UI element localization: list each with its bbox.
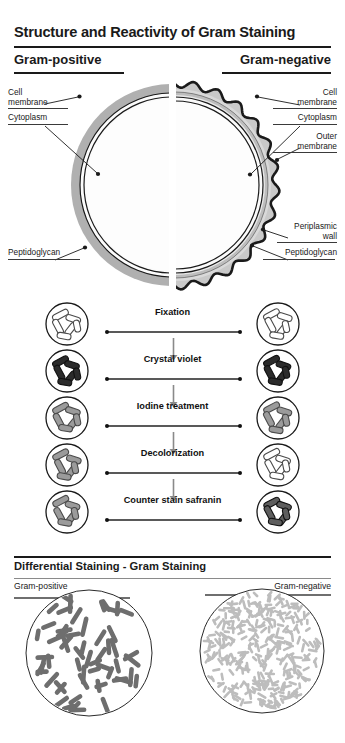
bottom-section-divider bbox=[14, 556, 331, 558]
callout-underline bbox=[8, 108, 68, 109]
callout-line-1: Cytoplasm bbox=[273, 113, 337, 123]
bacterium-rod bbox=[306, 619, 309, 625]
process-step-label: Fixation bbox=[0, 307, 345, 317]
process-step-label: Iodine treatment bbox=[0, 401, 345, 411]
gram-negative-underline bbox=[222, 72, 331, 74]
callout-underline bbox=[8, 124, 68, 125]
callout-cell-membrane-right: Cell membrane bbox=[273, 88, 337, 109]
title-divider bbox=[14, 46, 331, 48]
bacterium-rod bbox=[268, 626, 271, 634]
callout-line-1: Cytoplasm bbox=[8, 113, 72, 123]
connector-dot bbox=[105, 471, 109, 475]
bacterium-rod bbox=[242, 620, 249, 623]
bacterium-rod bbox=[223, 607, 233, 610]
connector-dot bbox=[238, 424, 242, 428]
process-step-label: Crystal violet bbox=[0, 354, 345, 364]
callout-line-2: membrane bbox=[273, 142, 337, 152]
callout-line-2: wall bbox=[277, 232, 337, 242]
diagram-page: Structure and Reactivity of Gram Stainin… bbox=[0, 0, 345, 743]
callout-periplasmic-wall-right: Periplasmic wall bbox=[277, 222, 337, 243]
callout-peptidoglycan-right: Peptidoglycan bbox=[263, 248, 337, 260]
callout-line-1: Peptidoglycan bbox=[263, 248, 337, 258]
bacterium-rod bbox=[35, 655, 54, 660]
callout-underline bbox=[273, 152, 337, 153]
connector-dot bbox=[105, 424, 109, 428]
bacterium-rod bbox=[303, 611, 306, 620]
page-title: Structure and Reactivity of Gram Stainin… bbox=[14, 24, 334, 40]
microscope-view-diagram bbox=[0, 585, 345, 730]
connector-dot bbox=[238, 471, 242, 475]
gram-negative-heading: Gram-negative bbox=[240, 52, 331, 67]
callout-underline bbox=[263, 259, 335, 260]
bottom-section-title: Differential Staining - Gram Staining bbox=[14, 560, 206, 572]
bacterium-rod bbox=[273, 620, 276, 627]
callout-cytoplasm-right: Cytoplasm bbox=[273, 113, 337, 125]
bacterium-rod bbox=[237, 607, 240, 616]
connector-dot bbox=[105, 330, 109, 334]
gram-positive-underline bbox=[14, 72, 124, 74]
callout-peptidoglycan-left: Peptidoglycan bbox=[8, 248, 82, 260]
cell-structure-diagram bbox=[0, 78, 345, 293]
callout-cell-membrane-left: Cell membrane bbox=[8, 88, 72, 109]
hemisphere-split-gap bbox=[169, 78, 176, 293]
callout-underline bbox=[273, 108, 337, 109]
callout-cytoplasm-left: Cytoplasm bbox=[8, 113, 72, 125]
bottom-title-underline bbox=[14, 578, 331, 579]
staining-process-diagram bbox=[0, 300, 345, 550]
bacterium-rod bbox=[264, 672, 275, 675]
bacterium-rod bbox=[224, 612, 227, 620]
process-step-label: Counter stain safranin bbox=[0, 495, 345, 505]
callout-line-2: membrane bbox=[273, 98, 337, 108]
connector-dot bbox=[238, 377, 242, 381]
callout-line-1: Peptidoglycan bbox=[8, 248, 82, 258]
process-step-label: Decolorization bbox=[0, 448, 345, 458]
gram-positive-heading: Gram-positive bbox=[14, 52, 101, 67]
callout-underline bbox=[273, 124, 337, 125]
bacterium-rod bbox=[35, 669, 49, 674]
callout-underline bbox=[8, 259, 80, 260]
callout-outer-membrane-right: Outer membrane bbox=[273, 132, 337, 153]
callout-underline bbox=[277, 242, 337, 243]
connector-dot bbox=[238, 330, 242, 334]
connector-dot bbox=[105, 518, 109, 522]
connector-dot bbox=[105, 377, 109, 381]
callout-line-2: membrane bbox=[8, 98, 72, 108]
connector-dot bbox=[238, 518, 242, 522]
